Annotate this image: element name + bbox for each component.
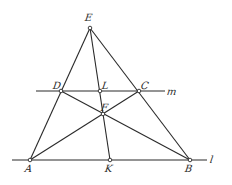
point-label-L: L [101, 81, 109, 91]
point-label-F: F [100, 103, 108, 113]
point-A [28, 158, 32, 162]
point-K [108, 158, 112, 162]
diagram-canvas [0, 0, 232, 185]
geometry-diagram: mlEDLCFAKB [0, 0, 232, 185]
line-label-m: m [166, 87, 177, 97]
point-label-E: E [84, 13, 93, 23]
segment-DB [61, 91, 190, 160]
segment-EA [30, 28, 90, 160]
segment-AC [30, 91, 139, 160]
segment-EK [90, 28, 110, 160]
point-label-B: B [184, 164, 193, 174]
point-label-C: C [140, 81, 149, 91]
point-E [88, 26, 92, 30]
point-B [188, 158, 192, 162]
point-label-K: K [104, 164, 113, 174]
point-label-D: D [52, 81, 61, 91]
point-label-A: A [24, 164, 33, 174]
